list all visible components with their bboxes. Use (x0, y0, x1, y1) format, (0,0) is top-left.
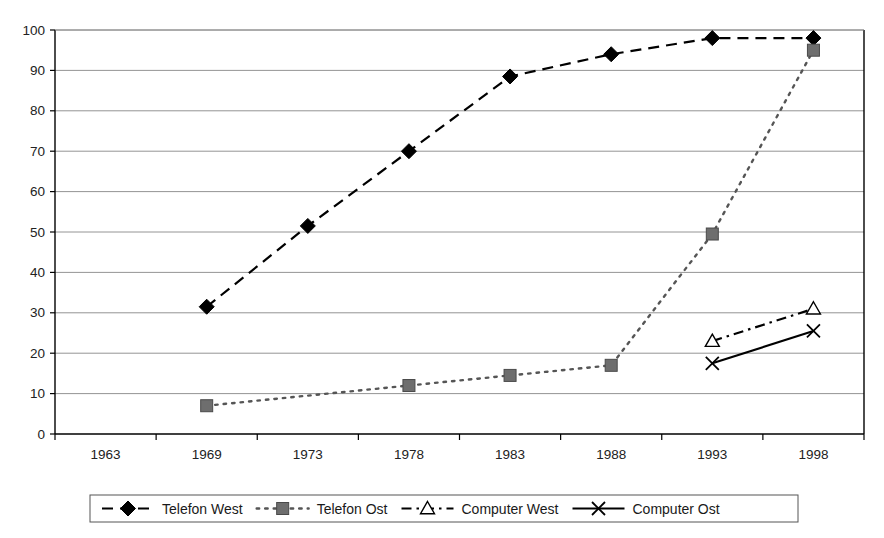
legend-label: Telefon West (162, 501, 243, 517)
x-tick-label: 1998 (798, 447, 828, 462)
y-tick-label: 40 (30, 265, 45, 280)
marker-filled-square (277, 503, 289, 515)
legend-label: Computer Ost (633, 501, 720, 517)
marker-filled-square (706, 228, 718, 240)
x-tick-label: 1963 (91, 447, 121, 462)
x-tick-label: 1993 (697, 447, 727, 462)
y-tick-label: 60 (30, 184, 45, 199)
y-tick-label: 10 (30, 386, 45, 401)
marker-filled-square (403, 380, 415, 392)
chart-container: 0102030405060708090100 19631969197319781… (0, 0, 884, 538)
y-tick-label: 70 (30, 144, 45, 159)
x-tick-label: 1973 (293, 447, 323, 462)
y-tick-label: 20 (30, 346, 45, 361)
marker-filled-square (201, 400, 213, 412)
x-tick-label: 1988 (596, 447, 626, 462)
y-tick-label: 80 (30, 103, 45, 118)
x-tick-label: 1983 (495, 447, 525, 462)
legend-label: Telefon Ost (317, 501, 388, 517)
y-tick-label: 50 (30, 225, 45, 240)
y-tick-label: 30 (30, 305, 45, 320)
y-tick-label: 100 (22, 23, 45, 38)
y-tick-label: 90 (30, 63, 45, 78)
marker-filled-square (504, 369, 516, 381)
legend-item-telefon-ost[interactable]: Telefon Ost (257, 501, 388, 517)
marker-filled-square (605, 359, 617, 371)
x-tick-label: 1978 (394, 447, 424, 462)
plot-background (0, 0, 884, 538)
x-tick-label: 1969 (192, 447, 222, 462)
marker-filled-square (807, 44, 819, 56)
chart-legend: Telefon WestTelefon OstComputer WestComp… (90, 495, 798, 522)
y-tick-label: 0 (37, 427, 45, 442)
line-chart: 0102030405060708090100 19631969197319781… (0, 0, 884, 538)
legend-label: Computer West (462, 501, 559, 517)
